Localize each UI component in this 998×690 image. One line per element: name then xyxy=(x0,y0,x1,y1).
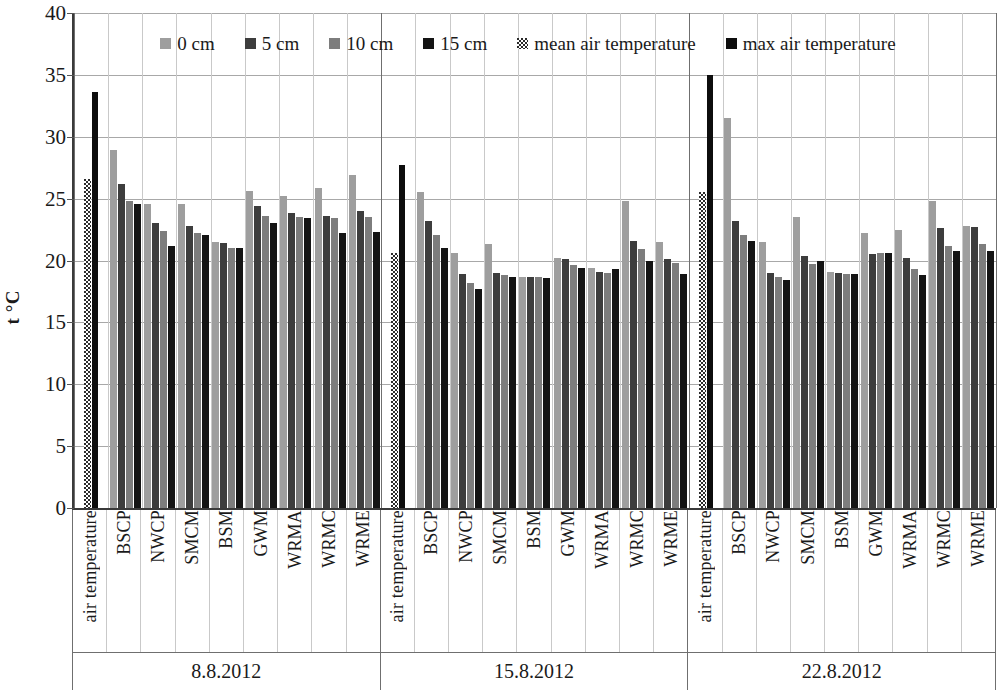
y-tick-label: 15 xyxy=(20,312,66,333)
y-tickmark xyxy=(67,508,74,509)
group-separator xyxy=(74,13,75,508)
bar xyxy=(160,231,167,508)
legend-swatch-icon xyxy=(329,38,340,49)
bar xyxy=(630,241,637,508)
x-category-label: WRMA xyxy=(901,510,919,573)
bar xyxy=(315,188,322,509)
x-category-label-cell: WRME xyxy=(654,510,687,652)
x-category-label: BSM xyxy=(217,510,235,553)
bar xyxy=(535,277,542,508)
x-group-date-label: 22.8.2012 xyxy=(688,652,995,690)
x-date-group: air temperatureBSCPNWCPSMCMBSMGWMWRMAWRM… xyxy=(688,510,996,690)
x-category-label-cell: WRMA xyxy=(586,510,620,652)
category-cell xyxy=(484,13,518,508)
category-cell xyxy=(723,13,757,508)
y-tickmark xyxy=(67,137,74,138)
category-cell xyxy=(450,13,484,508)
bar xyxy=(672,263,679,508)
x-category-label: air temperature xyxy=(81,510,99,626)
bar xyxy=(246,191,253,508)
x-category-label: air temperature xyxy=(388,510,406,626)
x-category-row: air temperatureBSCPNWCPSMCMBSMGWMWRMAWRM… xyxy=(381,510,688,652)
x-category-label: BSM xyxy=(525,510,543,553)
bar xyxy=(835,273,842,508)
bar xyxy=(903,258,910,508)
x-category-label-cell: WRMC xyxy=(312,510,346,652)
bar xyxy=(178,204,185,508)
legend-item[interactable]: mean air temperature xyxy=(517,34,695,53)
x-category-label-cell: SMCM xyxy=(483,510,517,652)
bar xyxy=(220,243,227,508)
category-cell xyxy=(859,13,893,508)
category-separator xyxy=(586,13,587,508)
legend-item[interactable]: 0 cm xyxy=(160,34,214,53)
bar xyxy=(339,233,346,508)
bar xyxy=(945,246,952,508)
x-category-label-cell: SMCM xyxy=(791,510,825,652)
bar-chart: t °C 4035302520151050 0 cm5 cm10 cm15 cm… xyxy=(0,0,998,690)
bar xyxy=(562,259,569,508)
legend-item[interactable]: 15 cm xyxy=(423,34,487,53)
legend-item[interactable]: 10 cm xyxy=(329,34,393,53)
category-separator xyxy=(791,13,792,508)
x-category-label-cell: NWCP xyxy=(449,510,483,652)
category-separator xyxy=(245,13,246,508)
category-separator xyxy=(450,13,451,508)
legend-label: 10 cm xyxy=(346,34,393,53)
category-separator xyxy=(655,13,656,508)
x-category-label: BSCP xyxy=(115,510,133,559)
legend-label: mean air temperature xyxy=(534,34,695,53)
category-cell xyxy=(279,13,313,508)
bar xyxy=(296,217,303,508)
x-category-label-cell: BSCP xyxy=(107,510,141,652)
x-category-label: GWM xyxy=(559,510,577,561)
bar xyxy=(554,258,561,508)
bar xyxy=(937,228,944,508)
category-cell xyxy=(142,13,176,508)
group-separator xyxy=(381,13,382,508)
category-cell xyxy=(620,13,654,508)
category-cell xyxy=(791,13,825,508)
bar xyxy=(604,273,611,508)
bar xyxy=(280,196,287,508)
bar xyxy=(767,273,774,508)
bar xyxy=(680,274,687,508)
category-separator xyxy=(859,13,860,508)
bar xyxy=(801,256,808,508)
x-axis: air temperatureBSCPNWCPSMCMBSMGWMWRMAWRM… xyxy=(72,510,996,690)
y-axis-ticks: 4035302520151050 xyxy=(0,0,66,690)
y-tickmark xyxy=(67,75,74,76)
category-cell xyxy=(689,13,723,508)
category-separator xyxy=(757,13,758,508)
x-category-label-cell: BSCP xyxy=(723,510,757,652)
bar xyxy=(373,232,380,508)
x-category-label: SMCM xyxy=(491,510,509,569)
category-separator xyxy=(962,13,963,508)
x-category-label: BSCP xyxy=(422,510,440,559)
category-separator xyxy=(142,13,143,508)
legend-item[interactable]: 5 cm xyxy=(245,34,299,53)
y-tick-label: 20 xyxy=(20,250,66,271)
bar xyxy=(288,213,295,508)
category-cell xyxy=(313,13,347,508)
bar xyxy=(212,242,219,508)
bar xyxy=(699,192,706,508)
bar xyxy=(843,274,850,508)
x-category-label: WRMA xyxy=(286,510,304,573)
legend-item[interactable]: max air temperature xyxy=(726,34,896,53)
category-separator xyxy=(347,13,348,508)
bar xyxy=(963,226,970,508)
bar xyxy=(775,277,782,508)
x-category-label: NWCP xyxy=(149,510,167,567)
bar xyxy=(588,268,595,508)
bar xyxy=(656,242,663,508)
bar xyxy=(646,261,653,509)
category-cell xyxy=(347,13,381,508)
y-tickmark xyxy=(67,384,74,385)
category-cell xyxy=(245,13,279,508)
group-separator xyxy=(996,13,997,508)
y-tickmark xyxy=(67,199,74,200)
group-separator xyxy=(689,13,690,508)
bar xyxy=(543,278,550,508)
bar xyxy=(827,272,834,508)
